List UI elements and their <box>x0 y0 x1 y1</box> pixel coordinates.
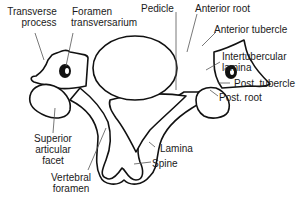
label-anterior-tubercle: Anterior tubercle <box>214 24 287 35</box>
leader-transverse-process <box>35 33 44 60</box>
vertebra-diagram: Transverse process Foramen transversariu… <box>0 0 304 206</box>
label-spine: Spine <box>152 158 178 169</box>
label-line: lamina <box>222 62 286 73</box>
label-anterior-root: Anterior root <box>195 3 250 14</box>
label-line: Vertebral <box>40 172 102 183</box>
leader-anterior-root <box>187 14 197 52</box>
label-line: process <box>2 17 62 28</box>
vertebral-body <box>93 36 177 100</box>
label-post-root: Post. root <box>219 92 262 103</box>
label-foramen-transversarium: Foramen transversarium <box>72 6 137 28</box>
label-line: foramen <box>40 183 102 194</box>
left-articular-facet <box>30 84 71 118</box>
label-line: transversarium <box>71 17 137 28</box>
label-line: facet <box>28 155 78 166</box>
label-vertebral-foramen: Vertebral foramen <box>40 172 102 194</box>
label-line: Superior <box>28 133 78 144</box>
label-superior-articular-facet: Superior articular facet <box>28 133 78 166</box>
label-intertubercular-lamina: Intertubercular lamina <box>222 51 286 73</box>
label-lamina: Lamina <box>160 143 193 154</box>
label-transverse-process: Transverse process <box>2 6 62 28</box>
label-post-tubercle: Post. tubercle <box>234 78 295 89</box>
label-pedicle: Pedicle <box>141 3 174 14</box>
label-line: articular <box>28 144 78 155</box>
label-line: Intertubercular <box>222 51 286 62</box>
label-line: Transverse <box>2 6 62 17</box>
label-line: Foramen <box>72 6 137 17</box>
